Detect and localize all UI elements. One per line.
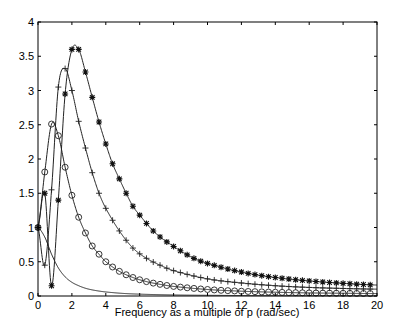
asterisk-marker-icon [238, 269, 244, 275]
plus-marker-icon [293, 284, 299, 290]
asterisk-marker-icon [191, 255, 197, 261]
plus-marker-icon [103, 205, 109, 211]
x-axis-label: Frequency as a multiple of p (rad/sec) [115, 306, 300, 318]
x-tick-label: 18 [337, 299, 349, 311]
plus-marker-icon [211, 277, 217, 283]
series-line [38, 68, 377, 289]
x-tick-label: 16 [303, 299, 315, 311]
plus-marker-icon [157, 262, 163, 268]
plus-marker-icon [110, 217, 116, 223]
asterisk-marker-icon [157, 234, 163, 240]
plus-marker-icon [218, 278, 224, 284]
asterisk-marker-icon [279, 275, 285, 281]
plus-marker-icon [184, 271, 190, 277]
y-tick-label: 0 [28, 290, 34, 302]
asterisk-marker-icon [55, 197, 61, 203]
plus-marker-icon [150, 259, 156, 265]
plus-marker-icon [238, 280, 244, 286]
series-asterisks [35, 45, 377, 289]
plus-marker-icon [279, 283, 285, 289]
asterisk-marker-icon [232, 268, 238, 274]
plus-marker-icon [69, 88, 75, 94]
plus-marker-icon [327, 285, 333, 291]
asterisk-marker-icon [82, 69, 88, 75]
asterisk-marker-icon [69, 46, 75, 52]
asterisk-marker-icon [49, 283, 55, 289]
series-layer [35, 45, 377, 296]
asterisk-marker-icon [266, 274, 272, 280]
asterisk-marker-icon [164, 239, 170, 245]
series-line [38, 45, 377, 286]
asterisk-marker-icon [293, 277, 299, 283]
plus-marker-icon [252, 281, 258, 287]
asterisk-marker-icon [259, 273, 265, 279]
y-tick-label: 4 [28, 16, 34, 28]
x-tick-label: 4 [103, 299, 109, 311]
asterisk-marker-icon [116, 176, 122, 182]
y-tick-label: 2.5 [19, 119, 34, 131]
plus-marker-icon [272, 283, 278, 289]
asterisk-marker-icon [123, 190, 129, 196]
asterisk-marker-icon [320, 279, 326, 285]
x-tick-label: 0 [35, 299, 41, 311]
plus-marker-icon [266, 282, 272, 288]
asterisk-marker-icon [299, 277, 305, 283]
plus-marker-icon [286, 284, 292, 290]
y-tick-label: 3 [28, 85, 34, 97]
y-tick-label: 0.5 [19, 256, 34, 268]
asterisk-marker-icon [143, 220, 149, 226]
plus-marker-icon [171, 268, 177, 274]
asterisk-marker-icon [62, 91, 68, 97]
plus-marker-icon [191, 273, 197, 279]
x-tick-label: 2 [69, 299, 75, 311]
plus-marker-icon [177, 270, 183, 276]
asterisk-marker-icon [313, 278, 319, 284]
y-tick-label: 1.5 [19, 187, 34, 199]
asterisk-marker-icon [306, 278, 312, 284]
asterisk-marker-icon [272, 275, 278, 281]
plus-marker-icon [55, 84, 61, 90]
asterisk-marker-icon [42, 190, 48, 196]
asterisk-marker-icon [252, 272, 258, 278]
asterisk-marker-icon [103, 141, 109, 147]
plus-marker-icon [313, 285, 319, 291]
plus-marker-icon [306, 284, 312, 290]
plus-marker-icon [299, 284, 305, 290]
asterisk-marker-icon [205, 260, 211, 266]
plus-marker-icon [320, 285, 326, 291]
y-tick-label: 1 [28, 222, 34, 234]
plus-marker-icon [333, 285, 339, 291]
asterisk-marker-icon [110, 161, 116, 167]
asterisk-marker-icon [327, 279, 333, 285]
plus-marker-icon [89, 170, 95, 176]
asterisk-marker-icon [333, 280, 339, 286]
asterisk-marker-icon [130, 203, 136, 209]
y-tick-label: 3.5 [19, 50, 34, 62]
plus-marker-icon [82, 145, 88, 151]
asterisk-marker-icon [354, 281, 360, 287]
asterisk-marker-icon [198, 258, 204, 264]
plus-marker-icon [116, 228, 122, 234]
plus-marker-icon [232, 279, 238, 285]
axes: 0246810121416182000.511.522.533.54 [19, 16, 383, 311]
asterisk-marker-icon [340, 280, 346, 286]
series-plus [35, 66, 377, 292]
asterisk-marker-icon [218, 264, 224, 270]
asterisk-marker-icon [245, 270, 251, 276]
asterisk-marker-icon [347, 281, 353, 287]
y-tick-label: 2 [28, 153, 34, 165]
asterisk-marker-icon [137, 212, 143, 218]
plus-marker-icon [245, 281, 251, 287]
asterisk-marker-icon [76, 46, 82, 52]
asterisk-marker-icon [171, 243, 177, 249]
asterisk-marker-icon [177, 248, 183, 254]
frequency-response-chart: 0246810121416182000.511.522.533.54 Frequ… [0, 0, 397, 335]
plus-marker-icon [76, 118, 82, 124]
series-line [38, 122, 377, 293]
series-circles [35, 121, 377, 296]
asterisk-marker-icon [211, 262, 217, 268]
plus-marker-icon [164, 265, 170, 271]
plus-marker-icon [259, 282, 265, 288]
plus-marker-icon [225, 279, 231, 285]
plus-marker-icon [143, 255, 149, 261]
